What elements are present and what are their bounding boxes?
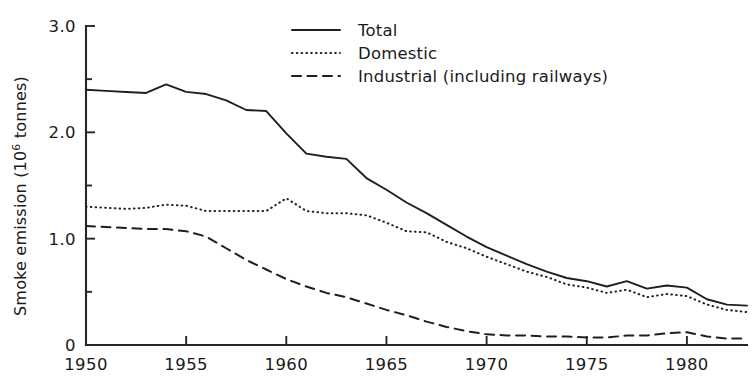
y-axis-title: Smoke emission (106 tonnes) (10, 76, 30, 316)
y-axis-title-text: Smoke emission (106 tonnes) (10, 76, 30, 316)
legend-label: Industrial (including railways) (358, 67, 608, 86)
x-tick-label: 1965 (365, 355, 409, 374)
x-tick-label: 1950 (64, 355, 108, 374)
y-axis-title-superscript: 6 (10, 143, 23, 150)
legend-label: Domestic (358, 44, 437, 63)
series-domestic (86, 198, 747, 312)
series-total (86, 84, 747, 305)
y-tick-label: 0 (65, 336, 76, 355)
x-tick-label: 1980 (665, 355, 709, 374)
y-tick-label: 1.0 (49, 230, 76, 249)
legend-label: Total (357, 21, 398, 40)
x-tick-label: 1955 (164, 355, 208, 374)
x-tick-label: 1975 (565, 355, 609, 374)
series-industrial (86, 226, 747, 339)
smoke-emission-chart: 01.02.03.0 1950195519601965197019751980 … (0, 0, 753, 392)
y-axis-tick-labels: 01.02.03.0 (49, 17, 76, 355)
x-tick-label: 1970 (465, 355, 509, 374)
series-group (86, 84, 747, 338)
x-tick-label: 1960 (265, 355, 309, 374)
chart-legend: TotalDomesticIndustrial (including railw… (292, 21, 608, 86)
x-axis-tick-labels: 1950195519601965197019751980 (64, 355, 709, 374)
y-axis-title-main: Smoke emission (10 (11, 151, 30, 316)
y-tick-label: 2.0 (49, 123, 76, 142)
y-tick-label: 3.0 (49, 17, 76, 36)
chart-canvas: 01.02.03.0 1950195519601965197019751980 … (0, 0, 753, 392)
y-axis-title-tail: tonnes) (11, 76, 30, 143)
